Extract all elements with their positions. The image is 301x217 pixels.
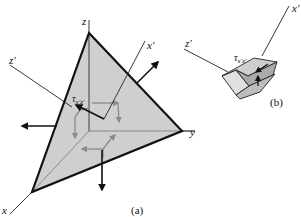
z-axis-label: z xyxy=(82,16,86,27)
stress-transformation-diagram xyxy=(0,0,301,217)
z-prime-axis-label: z' xyxy=(9,55,16,66)
x-prime-axis-label: x' xyxy=(147,40,154,51)
y-axis-label: y xyxy=(190,127,195,138)
x-axis-label: x xyxy=(2,205,7,216)
b-z-prime-axis-label: z' xyxy=(185,38,192,49)
tau-subscript-b: x'z' xyxy=(238,57,247,65)
caption-a: (a) xyxy=(131,205,143,216)
tau-subscript: x'z' xyxy=(76,98,85,106)
z-prime-axis xyxy=(10,65,72,107)
shear-stress-label-a: τx'z' xyxy=(72,94,84,106)
normal-stress-arrow-upright xyxy=(137,62,158,83)
b-x-prime-axis-label: x' xyxy=(292,3,299,14)
shear-stress-label-b: τx'z' xyxy=(234,53,246,65)
caption-b: (b) xyxy=(270,97,283,108)
x-axis-outer xyxy=(10,192,32,214)
b-x-prime-axis xyxy=(262,6,289,56)
b-z-prime-axis xyxy=(184,49,228,72)
part-a-figure xyxy=(10,20,195,214)
